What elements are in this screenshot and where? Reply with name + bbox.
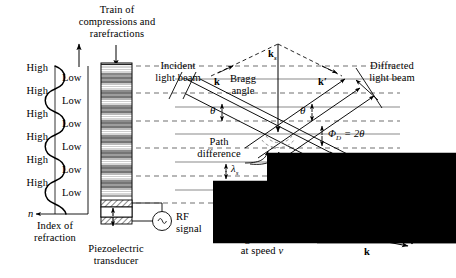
high-label-4: High [27, 131, 48, 143]
rf-signal-circuit [132, 203, 172, 231]
low-label-6: Low [62, 187, 82, 199]
speed-text: at speed [241, 245, 279, 256]
transducer-block-upper [101, 200, 132, 207]
vector-arrow-overbar [361, 210, 371, 214]
acousto-optic-bragg-diffraction-figure: Train of compressions and rarefractions … [0, 0, 456, 278]
incident-beam-label-line2: light beam [155, 72, 201, 84]
k-incident-vector-label: k [214, 76, 220, 88]
speed-symbol: v [278, 245, 283, 256]
vector-diagram-k-prime-label: k′ [362, 213, 371, 225]
k-sound-vector-label: ks [268, 48, 277, 65]
high-label-2: High [27, 85, 48, 97]
index-of-refraction-caption-line1: Index of [37, 220, 73, 232]
rf-signal-label-line1: RF [176, 211, 189, 223]
low-label-2: Low [62, 95, 82, 107]
rf-signal-label-line2: signal [176, 223, 202, 235]
vector-diagram-k-label: k [364, 246, 370, 258]
vector-diagram-k-sound-label: ks [416, 224, 425, 241]
low-label-5: Low [62, 164, 82, 176]
train-label-line2: compressions and [79, 16, 156, 28]
transducer-caption-line1: Piezoelectric [88, 243, 144, 255]
low-label-4: Low [62, 141, 82, 153]
incident-beam-label-line1: Incident [160, 60, 195, 72]
low-label-3: Low [62, 118, 82, 130]
high-label-1: High [27, 62, 48, 74]
high-label-5: High [27, 154, 48, 166]
sound-column [101, 63, 132, 226]
vector-arrow-overbar [267, 45, 277, 49]
transducer-caption-line2: transducer [94, 255, 139, 267]
high-label-3: High [27, 108, 48, 120]
vector-arrow-overbar [213, 73, 220, 77]
moving-sound-label-line1: Moving sound waves [216, 233, 308, 245]
train-label-line1: Train of [100, 4, 135, 16]
train-label-line3: rarefractions [90, 28, 144, 40]
transducer-block-lower [101, 217, 132, 224]
low-label-1: Low [62, 72, 82, 84]
vector-arrow-overbar [363, 243, 370, 247]
index-of-refraction-caption-line2: refraction [34, 232, 76, 244]
moving-sound-label-line2: at speed v [241, 245, 283, 257]
high-label-6: High [27, 177, 48, 189]
index-of-refraction-symbol: n [28, 208, 33, 220]
vector-arrow-overbar [415, 221, 425, 225]
